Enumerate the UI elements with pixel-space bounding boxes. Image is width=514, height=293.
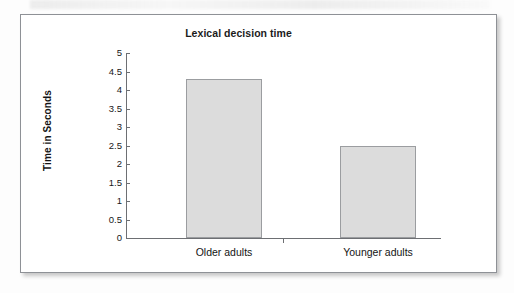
y-axis-tick-label: 0.5 — [109, 214, 122, 225]
y-axis-tick: 2.5 — [126, 146, 131, 147]
y-axis-tick-mark — [126, 183, 130, 184]
chart-frame: Lexical decision time Time in Seconds 54… — [20, 14, 497, 273]
y-axis-tick-mark — [126, 146, 130, 147]
y-axis-tick-mark — [126, 164, 130, 165]
y-axis-tick-mark — [126, 72, 130, 73]
bar — [186, 79, 262, 238]
y-axis-tick-label: 2 — [117, 158, 122, 169]
y-axis-tick-mark — [126, 127, 130, 128]
y-axis-tick: 0 — [126, 238, 131, 239]
y-axis-tick-label: 1.5 — [109, 177, 122, 188]
y-axis-tick-mark — [126, 90, 130, 91]
y-axis-tick-label: 3 — [117, 121, 122, 132]
y-axis-tick-mark — [126, 109, 130, 110]
scanned-page: Problems in Accessing Words Finding Time… — [0, 0, 514, 293]
x-axis-category-label: Older adults — [154, 246, 294, 258]
plot-area: Time in Seconds 54.543.532.521.510.50 Ol… — [21, 15, 498, 274]
y-axis-tick-label: 5 — [117, 47, 122, 58]
scan-smudge-artifact — [30, 0, 490, 9]
y-axis-tick-label: 4.5 — [109, 66, 122, 77]
y-axis-tick-label: 2.5 — [109, 140, 122, 151]
y-axis-tick: 4 — [126, 90, 131, 91]
y-axis-tick-label: 3.5 — [109, 103, 122, 114]
y-axis-tick: 4.5 — [126, 72, 131, 73]
y-axis-title: Time in Seconds — [42, 76, 53, 186]
x-axis-category-label: Younger adults — [308, 246, 448, 258]
y-axis-tick: 2 — [126, 164, 131, 165]
y-axis-tick: 0.5 — [126, 220, 131, 221]
y-axis-tick-mark — [126, 238, 130, 239]
y-axis-tick: 1.5 — [126, 183, 131, 184]
y-axis-tick-mark — [126, 220, 130, 221]
y-axis-tick: 1 — [126, 201, 131, 202]
y-axis-tick-mark — [126, 201, 130, 202]
x-axis-separator-tick — [283, 238, 284, 243]
y-axis-tick: 3 — [126, 127, 131, 128]
y-axis-tick-label: 4 — [117, 84, 122, 95]
y-axis-tick: 5 — [126, 53, 131, 54]
bar — [340, 146, 416, 239]
y-axis-tick-label: 1 — [117, 195, 122, 206]
y-axis-tick-label: 0 — [117, 232, 122, 243]
y-axis-tick-mark — [126, 53, 130, 54]
y-axis-tick: 3.5 — [126, 109, 131, 110]
